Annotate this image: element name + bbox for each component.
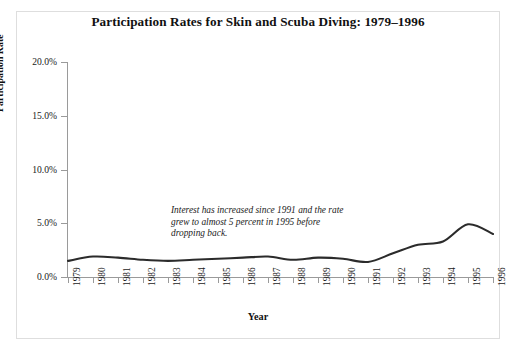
annotation-line-3: dropping back. bbox=[171, 228, 351, 240]
annotation-line-2: grew to almost 5 percent in 1995 before bbox=[171, 217, 351, 229]
series-plot bbox=[0, 0, 516, 351]
chart-figure: Participation Rates for Skin and Scuba D… bbox=[0, 0, 516, 351]
annotation-line-1: Interest has increased since 1991 and th… bbox=[171, 205, 351, 217]
chart-annotation: Interest has increased since 1991 and th… bbox=[171, 205, 351, 240]
